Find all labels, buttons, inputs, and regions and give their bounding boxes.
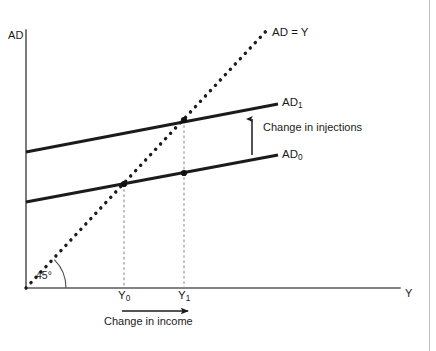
- ad-equals-y-line: [26, 29, 268, 288]
- ad-equals-y-label: AD = Y: [272, 27, 309, 39]
- ad1-curve: [26, 104, 278, 152]
- ad0-curve: [26, 155, 278, 202]
- y1-tick-subscript: 1: [186, 294, 191, 303]
- keynesian-cross-diagram: AD Y AD = Y AD1 AD0 45° Y0 Y1 Change in …: [0, 0, 436, 351]
- initial-equilibrium-point: [121, 181, 127, 187]
- y0-tick-subscript: 0: [126, 294, 131, 303]
- ad0-label-text: AD: [282, 148, 298, 160]
- ad0-label: AD0: [282, 149, 303, 161]
- y1-tick-label: Y1: [178, 290, 190, 302]
- diagram-canvas: [0, 0, 436, 351]
- ad1-label-subscript: 1: [298, 101, 303, 110]
- change-in-income-label: Change in income: [104, 316, 193, 327]
- x-axis-label: Y: [405, 288, 412, 299]
- point-on-ad0-at-y1: [181, 170, 187, 176]
- ad1-label: AD1: [282, 97, 303, 109]
- y0-tick-label: Y0: [118, 290, 130, 302]
- y-axis-label: AD: [8, 30, 23, 41]
- forty-five-degree-arc: [54, 260, 66, 288]
- forty-five-degree-label: 45°: [36, 270, 52, 281]
- new-equilibrium-point: [181, 117, 187, 123]
- ad1-label-text: AD: [282, 96, 298, 108]
- y1-tick-text: Y: [178, 289, 186, 301]
- change-in-injections-label: Change in injections: [263, 122, 362, 133]
- y0-tick-text: Y: [118, 289, 126, 301]
- ad0-label-subscript: 0: [298, 153, 303, 162]
